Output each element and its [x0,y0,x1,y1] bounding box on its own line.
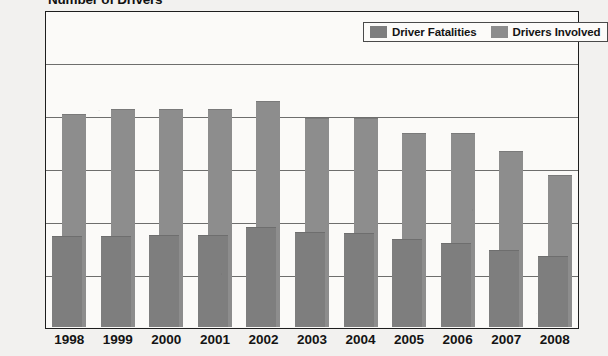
x-tick-2002: 2002 [248,332,278,347]
x-tick-2006: 2006 [443,332,473,347]
legend-item-driver-fatalities: Driver Fatalities [370,26,477,38]
plot-area [45,11,579,329]
x-tick-1998: 1998 [54,332,84,347]
x-tick-2005: 2005 [394,332,424,347]
x-axis-tick-labels: 1998199920002001200220032004200520062007… [45,332,579,354]
bar-driver-fatalities-1999 [101,236,131,327]
legend-swatch-fatalities-icon [370,26,387,38]
bar-driver-fatalities-2008 [538,256,568,327]
bar-driver-fatalities-2000 [149,235,179,327]
x-tick-2000: 2000 [151,332,181,347]
bar-driver-fatalities-2004 [344,233,374,327]
legend-label-drivers-involved: Drivers Involved [513,26,601,38]
x-tick-2007: 2007 [491,332,521,347]
x-tick-2001: 2001 [200,332,230,347]
chart-legend: Driver Fatalities Drivers Involved [363,22,608,42]
bars-layer [46,12,578,328]
bar-driver-fatalities-2007 [489,250,519,327]
x-tick-2004: 2004 [346,332,376,347]
bar-driver-fatalities-2002 [246,227,276,327]
legend-swatch-involved-icon [491,26,508,38]
bar-driver-fatalities-2003 [295,232,325,327]
legend-label-driver-fatalities: Driver Fatalities [392,26,477,38]
chart-title: Number of Drivers [48,0,162,7]
bar-driver-fatalities-2005 [392,239,422,327]
bar-driver-fatalities-2006 [441,243,471,327]
bar-driver-fatalities-1998 [52,236,82,327]
bar-driver-fatalities-2001 [198,235,228,327]
legend-item-drivers-involved: Drivers Involved [491,26,601,38]
x-tick-2003: 2003 [297,332,327,347]
x-tick-1999: 1999 [103,332,133,347]
x-tick-2008: 2008 [540,332,570,347]
